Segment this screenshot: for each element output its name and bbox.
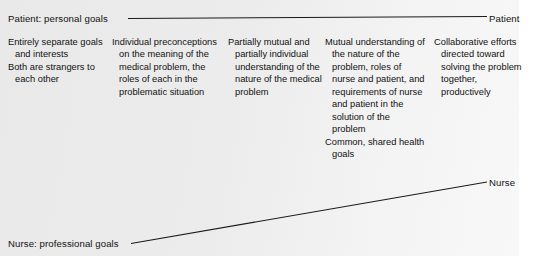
stage-4-paragraph-2: Common, shared health goals [325, 136, 425, 161]
stage-column-2: Individual preconceptions on the meaning… [112, 36, 224, 98]
nurse-endpoint-label: Nurse [489, 177, 515, 188]
stage-3-paragraph-1: Partially mutual and partially individua… [228, 36, 323, 98]
stage-4-paragraph-1: Mutual understanding of the nature of th… [325, 36, 425, 136]
nurse-goal-line [131, 182, 487, 244]
stage-column-1: Entirely separate goals and interests Bo… [8, 36, 108, 86]
stage-column-3: Partially mutual and partially individua… [228, 36, 323, 98]
nurse-professional-goals-label: Nurse: professional goals [8, 238, 119, 249]
patient-goal-line [128, 17, 487, 19]
patient-endpoint-label: Patient [489, 13, 520, 24]
stage-column-4: Mutual understanding of the nature of th… [325, 36, 425, 161]
patient-personal-goals-label: Patient: personal goals [8, 13, 108, 24]
convergence-diagram: Patient: personal goals Patient Nurse: p… [0, 0, 533, 261]
stage-2-paragraph-1: Individual preconceptions on the meaning… [112, 36, 224, 98]
stage-1-paragraph-1: Entirely separate goals and interests [8, 36, 108, 61]
stage-1-paragraph-2: Both are strangers to each other [8, 61, 108, 86]
stage-column-5: Collaborative efforts directed toward so… [434, 36, 524, 98]
stage-5-paragraph-1: Collaborative efforts directed toward so… [434, 36, 524, 98]
